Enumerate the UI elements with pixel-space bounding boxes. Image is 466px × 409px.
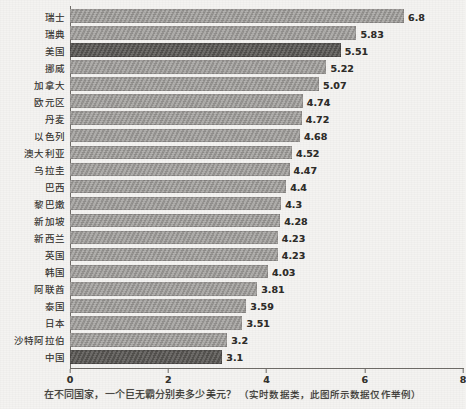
bar-value-label: 4.68 [304, 130, 327, 141]
caption-question: 在不同国家，一个巨无霸分别卖多少美元？ [44, 389, 236, 400]
bar-value-label: 4.03 [272, 267, 295, 278]
bar-row: 韩国4.03 [70, 264, 463, 281]
x-axis-tick: 0 [67, 369, 74, 385]
category-label: 沙特阿拉伯 [14, 333, 65, 347]
tick-mark [463, 369, 464, 373]
bar-value-label: 4.23 [282, 250, 305, 261]
tick-label: 6 [361, 374, 368, 385]
bar-row: 黎巴嫩4.3 [70, 196, 463, 213]
bar [70, 43, 341, 57]
bar [70, 111, 302, 125]
bar-value-label: 5.51 [345, 45, 368, 56]
bar [70, 77, 319, 91]
bar-row: 美国5.51 [70, 42, 463, 59]
category-label: 新加坡 [34, 214, 65, 228]
category-label: 黎巴嫩 [34, 197, 65, 211]
bar-value-label: 3.1 [226, 352, 243, 363]
tick-label: 2 [165, 374, 172, 385]
bar-value-label: 3.59 [250, 301, 273, 312]
bar-row: 加拿大5.07 [70, 76, 463, 93]
bar-value-label: 4.28 [284, 216, 307, 227]
bar-row: 挪威5.22 [70, 59, 463, 76]
category-label: 澳大利亚 [24, 146, 65, 160]
bar [70, 231, 278, 245]
category-label: 瑞士 [45, 10, 65, 24]
bar [70, 282, 257, 296]
bar [70, 9, 404, 23]
plot-area: 瑞士6.8瑞典5.83美国5.51挪威5.22加拿大5.07欧元区4.74丹麦4… [70, 8, 463, 366]
tick-mark [266, 369, 267, 373]
bar [70, 60, 326, 74]
bar [70, 197, 281, 211]
bar [70, 350, 222, 364]
x-axis-tick: 4 [263, 369, 270, 385]
bar-row: 泰国3.59 [70, 298, 463, 315]
bar-row: 中国3.1 [70, 349, 463, 366]
bar [70, 146, 292, 160]
bar-value-label: 3.51 [246, 318, 269, 329]
bar [70, 180, 286, 194]
tick-mark [168, 369, 169, 373]
bar-row: 澳大利亚4.52 [70, 144, 463, 161]
bar-row: 丹麦4.72 [70, 110, 463, 127]
bar-row: 乌拉圭4.47 [70, 161, 463, 178]
category-label: 美国 [45, 44, 65, 58]
bar [70, 163, 290, 177]
tick-label: 4 [263, 374, 270, 385]
bar [70, 248, 278, 262]
bar [70, 265, 268, 279]
bar-row: 欧元区4.74 [70, 93, 463, 110]
category-label: 挪威 [45, 61, 65, 75]
bar [70, 333, 227, 347]
chart-caption: 在不同国家，一个巨无霸分别卖多少美元？ （实时数据类，此图所示数据仅作举例） [0, 386, 465, 401]
bar-value-label: 4.23 [282, 233, 305, 244]
bar-value-label: 4.4 [290, 181, 307, 192]
bar-value-label: 3.2 [231, 335, 248, 346]
bar-value-label: 4.52 [296, 147, 319, 158]
x-axis-tick: 8 [460, 369, 466, 385]
category-label: 韩国 [45, 265, 65, 279]
category-label: 英国 [45, 248, 65, 262]
category-label: 泰国 [45, 299, 65, 313]
bar-value-label: 4.74 [307, 96, 330, 107]
bar [70, 94, 303, 108]
bar-row: 新西兰4.23 [70, 230, 463, 247]
bar-value-label: 5.83 [360, 28, 383, 39]
x-axis-tick: 2 [165, 369, 172, 385]
category-label: 乌拉圭 [34, 163, 65, 177]
category-label: 以色列 [34, 129, 65, 143]
category-label: 日本 [45, 316, 65, 330]
bar [70, 214, 280, 228]
bar [70, 129, 300, 143]
bar [70, 26, 356, 40]
bar-value-label: 3.81 [261, 284, 284, 295]
bar-row: 阿联酋3.81 [70, 281, 463, 298]
bar-row: 瑞士6.8 [70, 8, 463, 25]
bar-row: 日本3.51 [70, 315, 463, 332]
bar [70, 316, 242, 330]
bar-value-label: 6.8 [408, 11, 425, 22]
caption-note: （实时数据类，此图所示数据仅作举例） [239, 389, 421, 400]
bar-value-label: 4.72 [306, 113, 329, 124]
tick-label: 8 [460, 374, 466, 385]
tick-mark [364, 369, 365, 373]
category-label: 欧元区 [34, 95, 65, 109]
tick-label: 0 [67, 374, 74, 385]
bar-row: 以色列4.68 [70, 127, 463, 144]
category-label: 新西兰 [34, 231, 65, 245]
category-label: 中国 [45, 350, 65, 364]
category-label: 阿联酋 [34, 282, 65, 296]
category-label: 丹麦 [45, 112, 65, 126]
bar-row: 沙特阿拉伯3.2 [70, 332, 463, 349]
bar-value-label: 4.3 [285, 199, 302, 210]
tick-mark [70, 369, 71, 373]
bar-value-label: 4.47 [294, 164, 317, 175]
bar-row: 瑞典5.83 [70, 25, 463, 42]
category-label: 瑞典 [45, 27, 65, 41]
bar [70, 299, 246, 313]
plot-wrapper: 瑞士6.8瑞典5.83美国5.51挪威5.22加拿大5.07欧元区4.74丹麦4… [0, 6, 465, 378]
category-label: 加拿大 [34, 78, 65, 92]
bar-row: 新加坡4.28 [70, 213, 463, 230]
bar-row: 巴西4.4 [70, 178, 463, 195]
